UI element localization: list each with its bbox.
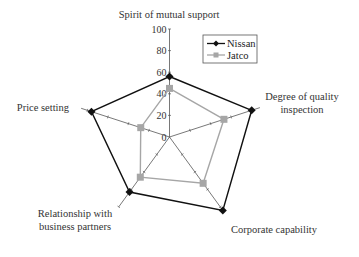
- diamond-marker-icon: [219, 206, 227, 214]
- axis-tick: [87, 109, 88, 112]
- axis-tick: [107, 116, 108, 119]
- square-marker-icon: [137, 124, 144, 131]
- radial-tick-label: 0: [162, 132, 167, 143]
- square-marker-icon: [220, 116, 227, 123]
- square-marker-icon: [214, 53, 219, 58]
- category-label: Relationship withbusiness partners: [38, 208, 113, 232]
- axis-tick: [231, 116, 232, 119]
- category-label: Degree of qualityinspection: [265, 91, 339, 115]
- legend-label-nissan: Nissan: [227, 38, 256, 49]
- axis-tick: [128, 122, 129, 125]
- series-polygon: [91, 77, 251, 211]
- diamond-marker-icon: [166, 73, 174, 81]
- series-jatco: [137, 85, 228, 187]
- series-polygon: [140, 88, 224, 183]
- square-marker-icon: [137, 174, 144, 181]
- axis-tick: [190, 129, 191, 132]
- legend: Nissan Jatco: [203, 35, 257, 63]
- legend-label-jatco: Jatco: [227, 50, 249, 61]
- radial-tick-label: 20: [157, 110, 167, 121]
- diamond-marker-icon: [126, 188, 134, 196]
- radial-tick-label: 60: [157, 67, 167, 78]
- category-label: Price setting: [17, 102, 70, 113]
- axis-line: [170, 108, 260, 137]
- data-series: [87, 73, 255, 215]
- radial-tick-label: 100: [152, 24, 167, 35]
- radial-tick-label: 80: [157, 45, 167, 56]
- square-marker-icon: [200, 180, 207, 187]
- square-marker-icon: [166, 85, 173, 92]
- category-label: Spirit of mutual support: [119, 9, 220, 20]
- axis-tick: [210, 122, 211, 125]
- diamond-marker-icon: [248, 106, 256, 114]
- series-nissan: [87, 73, 255, 215]
- radar-chart: 020406080100 Spirit of mutual supportDeg…: [0, 0, 359, 257]
- diamond-marker-icon: [87, 108, 95, 116]
- axis-tick: [148, 129, 149, 132]
- category-label: Corporate capability: [231, 224, 318, 235]
